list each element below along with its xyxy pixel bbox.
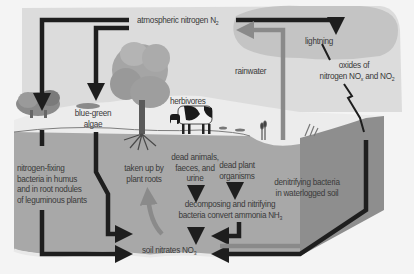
label-nitrogen-fixing-bacteria: nitrogen-fixing bacteria in humus and in… [17, 163, 87, 205]
nitrogen-cycle-diagram: atmospheric nitrogen N2 lightning oxides… [0, 0, 414, 274]
cloud-shape [233, 6, 398, 60]
label-decomposing-bacteria: decomposing and nitrifying bacteria conv… [178, 199, 281, 220]
label-herbivores: herbivores [170, 96, 206, 107]
label-blue-green-algae: blue-green algae [70, 108, 116, 129]
label-oxides-of-nitrogen: oxides of nitrogen NOx and NO2 [320, 60, 389, 81]
label-rainwater: rainwater [235, 66, 266, 77]
label-atmospheric-nitrogen: atmospheric nitrogen N2 [137, 15, 218, 26]
label-taken-up-by-plant-roots: taken up by plant roots [122, 163, 167, 184]
label-lightning: lightning [305, 36, 333, 47]
label-denitrifying-bacteria: denitrifying bacteria in waterlogged soi… [271, 177, 343, 198]
diagram-artwork [0, 0, 414, 274]
label-dead-animals: dead animals, faeces, and urine [167, 152, 224, 184]
label-soil-nitrates: soil nitrates NO3 [142, 245, 196, 256]
label-dead-plant-organisms: dead plant organisms [217, 160, 257, 181]
